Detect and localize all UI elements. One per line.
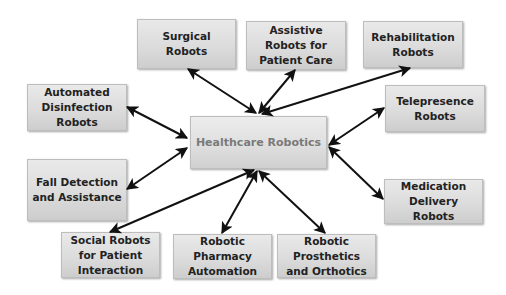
arrow-medication <box>329 147 383 199</box>
healthcare-robotics-diagram: Healthcare Robotics Surgical Robots Assi… <box>0 0 506 295</box>
arrow-telepresence <box>329 108 384 145</box>
arrow-disinfection <box>127 107 187 138</box>
arrow-rehabilitation <box>262 68 410 114</box>
arrow-social <box>110 170 254 232</box>
connector-arrows <box>0 0 506 295</box>
arrow-fall-detection <box>127 148 187 189</box>
arrow-prosthetics <box>259 171 325 233</box>
arrow-pharmacy <box>222 171 257 233</box>
arrow-assistive <box>259 70 295 113</box>
arrow-surgical <box>188 69 256 113</box>
